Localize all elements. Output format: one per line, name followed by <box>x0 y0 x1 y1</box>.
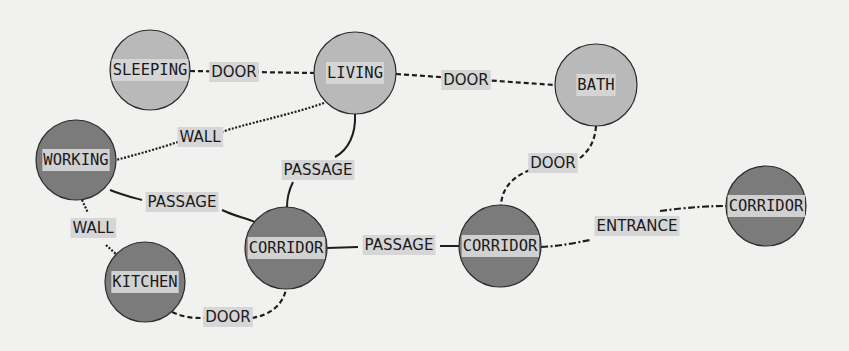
edge-label: PASSAGE <box>282 160 355 180</box>
edge-label-text: DOOR <box>443 71 489 89</box>
edge-label-text: DOOR <box>211 63 257 81</box>
edge-label-text: WALL <box>73 219 115 237</box>
node-corridor_3[interactable]: CORRIDOR <box>726 166 806 246</box>
node-bath[interactable]: BATH <box>555 44 637 126</box>
edge-label-text: PASSAGE <box>284 161 353 179</box>
node-label: WORKING <box>43 151 108 169</box>
edge-label-text: WALL <box>180 128 222 146</box>
edge-label-text: PASSAGE <box>365 236 434 254</box>
edge-label-text: DOOR <box>530 154 576 172</box>
edge-label: DOOR <box>528 153 578 173</box>
node-label: CORRIDOR <box>249 239 324 257</box>
node-corridor_2[interactable]: CORRIDOR <box>459 205 541 287</box>
node-living[interactable]: LIVING <box>314 32 396 114</box>
edge-label: PASSAGE <box>363 235 436 255</box>
edge-label-text: ENTRANCE <box>596 217 677 235</box>
edge-label-text: PASSAGE <box>148 193 217 211</box>
node-label: KITCHEN <box>112 273 177 291</box>
node-label: BATH <box>577 76 614 94</box>
edge-label: PASSAGE <box>146 192 219 212</box>
edge-label-text: DOOR <box>205 308 251 326</box>
edge-label: DOOR <box>441 70 491 90</box>
node-working[interactable]: WORKING <box>36 120 116 200</box>
node-label: LIVING <box>327 64 383 82</box>
node-kitchen[interactable]: KITCHEN <box>105 242 185 322</box>
edge-label: ENTRANCE <box>594 216 679 236</box>
node-label: CORRIDOR <box>729 197 804 215</box>
edge-label: DOOR <box>209 62 259 82</box>
node-sleeping[interactable]: SLEEPING <box>110 30 190 110</box>
node-label: SLEEPING <box>113 61 188 79</box>
edge-label: WALL <box>71 218 117 238</box>
edge-label: DOOR <box>203 307 253 327</box>
room-graph-diagram: SLEEPINGLIVINGBATHWORKINGKITCHENCORRIDOR… <box>0 0 849 351</box>
edge-label: WALL <box>178 127 224 147</box>
node-corridor_1[interactable]: CORRIDOR <box>245 207 327 289</box>
node-label: CORRIDOR <box>463 237 538 255</box>
